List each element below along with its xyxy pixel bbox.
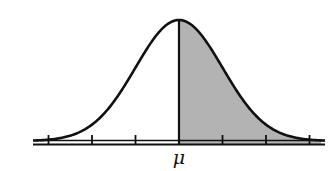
normal-distribution-diagram [0, 0, 333, 171]
shaded-area-right-of-mean [179, 20, 321, 144]
mean-label-mu: μ [168, 146, 190, 168]
